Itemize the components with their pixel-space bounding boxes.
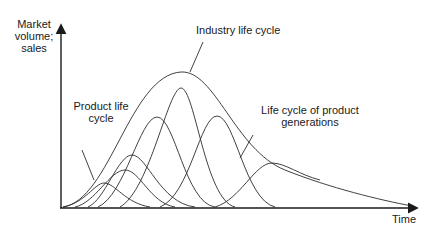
industry-label: Industry life cycle (196, 24, 280, 36)
product-curve (215, 163, 320, 207)
industry-leader-line (190, 42, 203, 72)
product-curve (120, 88, 235, 207)
label-line: cycle (66, 112, 136, 124)
product-curve (98, 117, 215, 207)
y-label-line: volume; (12, 30, 56, 42)
product-life-cycle-label: Product life cycle (66, 100, 136, 124)
product-leader-line (82, 150, 94, 180)
industry-curve (63, 72, 412, 207)
label-line: Life cycle of product (255, 104, 365, 116)
y-label-line: sales (12, 42, 56, 54)
label-line: Product life (66, 100, 136, 112)
y-axis-label: Market volume; sales (12, 18, 56, 54)
y-label-line: Market (12, 18, 56, 30)
product-curve (160, 116, 275, 207)
generations-label: Life cycle of product generations (255, 104, 365, 128)
x-axis-label: Time (392, 213, 416, 225)
label-line: generations (255, 116, 365, 128)
